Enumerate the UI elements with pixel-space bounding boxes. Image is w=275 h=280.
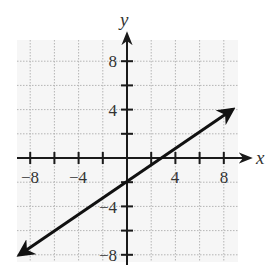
x-tick-label: −4 [69, 168, 88, 187]
y-tick-label: 8 [109, 52, 118, 71]
y-tick-label: −8 [99, 246, 117, 265]
line-chart: −8 −4 4 8 8 4 −4 −8 x y [0, 0, 275, 280]
y-tick-label: −4 [99, 198, 118, 217]
x-tick-label: 8 [220, 168, 229, 187]
y-axis-label: y [118, 9, 129, 30]
y-tick-label: 4 [109, 101, 118, 120]
x-tick-label: −8 [21, 168, 39, 187]
x-tick-label: 4 [171, 168, 180, 187]
x-axis-label: x [255, 147, 265, 168]
